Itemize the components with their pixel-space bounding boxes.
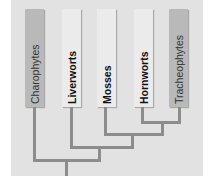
node-mosses-clade bbox=[104, 133, 164, 136]
branch-mosses bbox=[104, 107, 107, 136]
taxon-box-hornworts: Hornworts bbox=[134, 9, 153, 107]
taxon-box-charophytes: Charophytes bbox=[25, 9, 44, 107]
branch-charophytes bbox=[33, 107, 36, 162]
taxon-label-mosses: Mosses bbox=[102, 65, 112, 104]
branch-root-stem bbox=[65, 159, 68, 176]
taxon-label-charophytes: Charophytes bbox=[30, 44, 40, 104]
taxon-label-hornworts: Hornworts bbox=[139, 52, 149, 105]
taxon-label-liverworts: Liverworts bbox=[67, 51, 77, 104]
node-land-plants bbox=[70, 146, 134, 149]
taxon-label-tracheophytes: Tracheophytes bbox=[174, 35, 184, 104]
taxon-box-mosses: Mosses bbox=[97, 9, 116, 107]
taxon-box-tracheophytes: Tracheophytes bbox=[169, 9, 188, 107]
taxon-box-liverworts: Liverworts bbox=[62, 9, 81, 107]
branch-liverworts bbox=[70, 107, 73, 149]
